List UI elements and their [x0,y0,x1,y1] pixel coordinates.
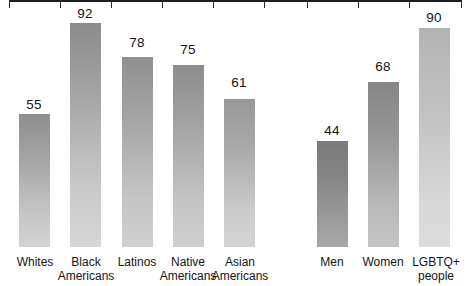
bar-value-label: 68 [353,60,413,74]
bar-black-americans[interactable] [70,23,101,247]
bar-chart: 55 92 78 75 61 44 68 90 [0,0,471,286]
axis-tick [264,0,265,8]
bar-value-label: 55 [4,98,64,112]
category-label-men: Men [303,255,361,269]
axis-tick [307,0,308,8]
category-label-line: Americans [56,269,116,283]
axis-tick [409,0,410,8]
category-label-line: Americans [210,269,270,283]
category-labels: Whites Black Americans Latinos Native Am… [0,249,471,286]
axis-tick [162,0,163,8]
axis-tick [358,0,359,8]
category-label-black-americans: Black Americans [56,255,116,283]
category-label-line: Men [303,255,361,269]
category-label-line: Black [56,255,116,269]
bar-value-label: 44 [302,124,362,138]
bar-value-label: 75 [158,43,218,57]
axis-tick [111,0,112,8]
axis-tick [60,0,61,8]
axis-tick [9,0,10,8]
bar-native-americans[interactable] [173,65,204,247]
bar-women[interactable] [368,82,399,247]
category-label-native-americans: Native Americans [158,255,218,283]
axis-tick [213,0,214,8]
bar-lgbtq-people[interactable] [419,28,450,247]
category-label-line: people [404,269,468,283]
bar-men[interactable] [317,141,348,247]
category-label-line: LGBTQ+ [404,255,468,269]
category-label-line: Native [158,255,218,269]
bar-whites[interactable] [19,114,50,247]
bar-asian-americans[interactable] [224,99,255,247]
x-axis [0,0,471,39]
category-label-line: Americans [158,269,218,283]
axis-tick [461,0,462,8]
bar-latinos[interactable] [122,57,153,247]
category-label-asian-americans: Asian Americans [210,255,270,283]
axis-line [9,0,462,2]
category-label-line: Asian [210,255,270,269]
category-label-lgbtq-people: LGBTQ+ people [404,255,468,283]
bar-value-label: 61 [209,76,269,90]
